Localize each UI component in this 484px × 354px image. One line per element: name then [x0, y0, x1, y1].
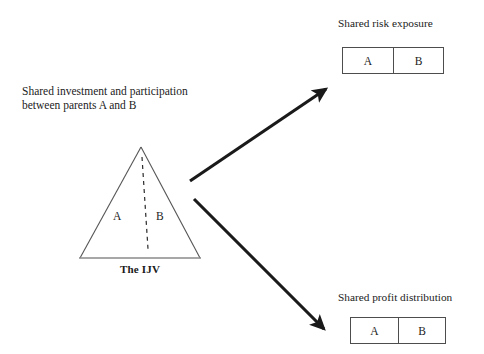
triangle-dashed-divider: [142, 157, 148, 249]
ijv-label: The IJV: [88, 263, 192, 275]
triangle-label-a: A: [113, 210, 121, 222]
triangle-right-edge: [141, 147, 200, 258]
profit-cell-a: A: [351, 318, 398, 343]
arrow-to-risk: [190, 89, 326, 181]
diagram-canvas: Shared investment and participation betw…: [0, 0, 484, 354]
triangle-label-b: B: [156, 210, 164, 222]
arrow-to-profit: [194, 199, 324, 329]
shared-profit-distribution-box: A B: [350, 317, 446, 344]
triangle-left-edge: [80, 147, 141, 258]
risk-cell-a: A: [343, 48, 393, 73]
shared-risk-exposure-caption: Shared risk exposure: [338, 16, 478, 30]
shared-risk-exposure-box: A B: [342, 47, 444, 74]
shared-profit-distribution-caption: Shared profit distribution: [338, 290, 483, 304]
profit-cell-b: B: [398, 318, 445, 343]
risk-cell-b: B: [393, 48, 443, 73]
